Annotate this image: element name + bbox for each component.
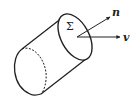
velocity-label: v <box>123 31 130 44</box>
surface-label: Σ <box>66 20 74 33</box>
bottom-side-line <box>41 59 86 94</box>
cylinder-diagram: Σ n v <box>0 0 139 102</box>
normal-label: n <box>112 6 120 19</box>
back-end-ellipse <box>14 48 46 95</box>
